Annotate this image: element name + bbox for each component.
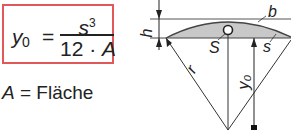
label-h: h: [138, 28, 155, 37]
centroid-point-icon: [224, 26, 233, 35]
y0-end-marker: [251, 125, 257, 130]
label-s: s: [263, 38, 271, 55]
y0-arrow-icon: [251, 38, 257, 47]
label-y0: y₀: [235, 74, 252, 90]
label-b: b: [268, 3, 277, 20]
h-arrow-bottom-icon: [156, 38, 162, 47]
circular-segment-diagram: h b S s r y₀: [0, 0, 291, 130]
h-arrow-top-icon: [156, 10, 162, 19]
label-r: r: [183, 62, 201, 76]
label-S: S: [209, 39, 220, 56]
